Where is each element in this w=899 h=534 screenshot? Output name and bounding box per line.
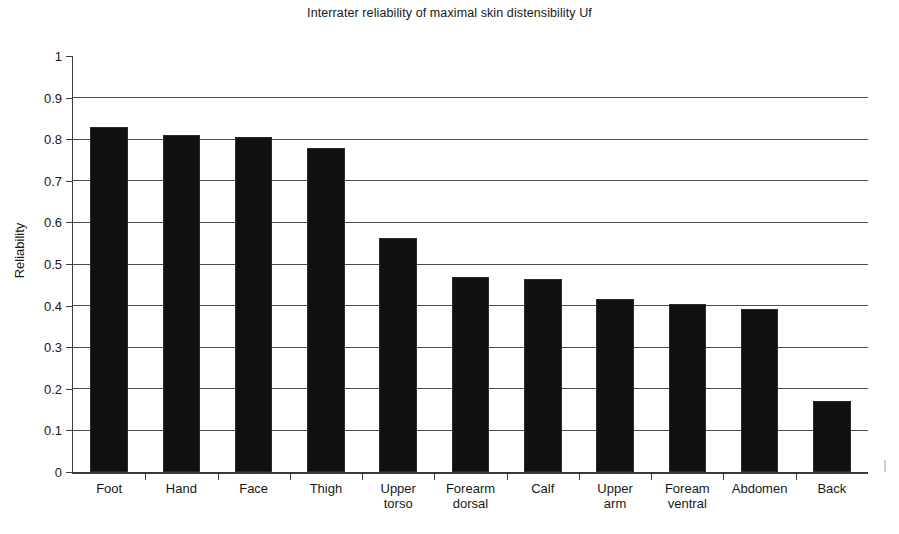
gridline [73,56,868,57]
x-axis-label-line: ventral [651,496,723,511]
x-axis-label-line: dorsal [434,496,506,511]
bar [524,279,562,472]
y-axis-tick [66,222,73,223]
x-axis-category-label: Forearmdorsal [434,481,506,511]
y-axis-tick [66,56,73,57]
chart-figure: Interrater reliability of maximal skin d… [0,0,899,534]
x-axis-category-label: Foot [73,481,145,496]
y-axis-tick-label: 0.3 [20,340,62,355]
y-axis-tick-labels: 10.90.80.70.60.50.40.30.20.10 [18,0,62,534]
x-axis-tick [362,472,363,480]
y-axis-tick-label: 0 [20,465,62,480]
x-axis-label-line: Hand [145,481,217,496]
y-axis-tick-label: 0.2 [20,381,62,396]
y-axis-tick [66,264,73,265]
bar [669,304,707,472]
y-axis-tick [66,347,73,348]
x-axis-label-line: Foot [73,481,145,496]
bar [90,127,128,472]
x-axis-label-line: Back [796,481,868,496]
x-axis-label-line: Forearm [434,481,506,496]
x-axis-category-label: Thigh [290,481,362,496]
y-axis-tick [66,306,73,307]
y-axis-tick-label: 1 [20,49,62,64]
bar [235,137,273,472]
bar [452,277,490,472]
y-axis-tick-label: 0.5 [20,257,62,272]
x-axis-tick [651,472,652,480]
x-axis-label-line: Upper [579,481,651,496]
y-axis-tick [66,389,73,390]
x-axis-tick [579,472,580,480]
x-axis-tick [290,472,291,480]
bar [307,148,345,472]
bar [596,299,634,472]
chart-title: Interrater reliability of maximal skin d… [0,6,899,20]
x-axis-tick [145,472,146,480]
x-axis-label-line: arm [579,496,651,511]
x-axis-category-label: Foreamventral [651,481,723,511]
y-axis-tick-label: 0.7 [20,173,62,188]
x-axis-category-label: Uppertorso [362,481,434,511]
bar [163,135,201,472]
x-axis-tick [507,472,508,480]
y-axis-tick-label: 0.9 [20,90,62,105]
x-axis-tick [796,472,797,480]
x-axis-label-line: Abdomen [723,481,795,496]
y-axis-tick [66,430,73,431]
x-axis-label-line: Face [218,481,290,496]
x-axis-category-label: Hand [145,481,217,496]
bar [379,238,417,472]
x-axis-category-label: Back [796,481,868,496]
x-axis-tick [434,472,435,480]
bar [813,401,851,472]
x-axis-label-line: Thigh [290,481,362,496]
y-axis-tick-label: 0.4 [20,298,62,313]
x-axis-tick [218,472,219,480]
x-axis-category-label: Face [218,481,290,496]
bar [741,309,779,472]
x-axis-label-line: Foream [651,481,723,496]
x-axis-category-label: Upperarm [579,481,651,511]
y-axis-tick-label: 0.6 [20,215,62,230]
y-axis-tick [66,98,73,99]
x-axis-tick [723,472,724,480]
plot-area [73,56,868,472]
gridline [73,97,868,98]
y-axis-tick-label: 0.1 [20,423,62,438]
y-axis-tick [66,139,73,140]
x-axis-category-label: Calf [507,481,579,496]
x-axis-category-label: Abdomen [723,481,795,496]
scan-artifact [884,460,886,472]
x-axis-label-line: Upper [362,481,434,496]
y-axis-tick [66,181,73,182]
x-axis-label-line: torso [362,496,434,511]
y-axis-tick-label: 0.8 [20,132,62,147]
x-axis-label-line: Calf [507,481,579,496]
y-axis-tick [66,472,73,473]
